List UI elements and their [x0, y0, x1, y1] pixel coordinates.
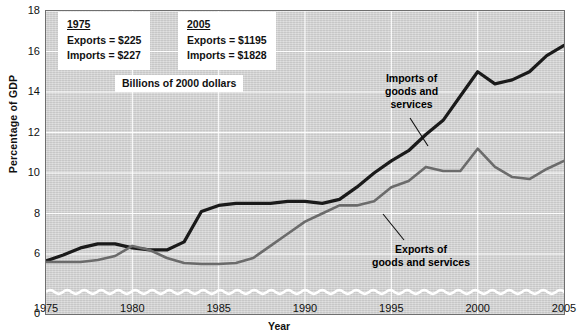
x-tick-2000: 2000	[465, 302, 489, 314]
info-box-1975: 1975 Exports = $225 Imports = $227	[58, 12, 150, 70]
info-box-1975-exports-label: Exports =	[67, 34, 115, 46]
info-box-1975-row-imports: Imports = $227	[67, 48, 141, 63]
x-axis-title: Year	[268, 320, 290, 332]
y-tick-6: 6	[18, 247, 40, 259]
info-box-1975-row-exports: Exports = $225	[67, 33, 141, 48]
info-box-2005-title: 2005	[187, 17, 267, 32]
info-box-2005-row-imports: Imports = $1828	[187, 48, 267, 63]
y-tick-8: 8	[18, 207, 40, 219]
series-label-imports: Imports of goods and services	[385, 72, 438, 111]
x-tick-1980: 1980	[120, 302, 144, 314]
units-note: Billions of 2000 dollars	[115, 75, 243, 92]
info-box-2005-exports-value: $1195	[238, 34, 267, 46]
info-box-2005: 2005 Exports = $1195 Imports = $1828	[178, 12, 276, 70]
x-tick-1995: 1995	[379, 302, 403, 314]
info-box-2005-imports-label: Imports =	[187, 49, 235, 61]
y-tick-14: 14	[18, 85, 40, 97]
info-box-2005-exports-label: Exports =	[187, 34, 235, 46]
chart-container: Percentage of GDP Year 0681012141618 197…	[0, 0, 586, 336]
info-box-1975-imports-value: $227	[117, 49, 140, 61]
y-tick-18: 18	[18, 4, 40, 16]
series-label-exports: Exports of goods and services	[372, 243, 470, 269]
x-tick-2005: 2005	[552, 302, 576, 314]
y-tick-16: 16	[18, 45, 40, 57]
info-box-1975-title: 1975	[67, 17, 141, 32]
info-box-1975-exports-value: $225	[118, 34, 141, 46]
info-box-2005-row-exports: Exports = $1195	[187, 33, 267, 48]
x-tick-1990: 1990	[293, 302, 317, 314]
y-tick-10: 10	[18, 166, 40, 178]
info-box-2005-imports-value: $1828	[237, 49, 266, 61]
x-tick-1985: 1985	[206, 302, 230, 314]
y-axis-tick-labels: 0681012141618	[0, 0, 40, 336]
info-box-1975-imports-label: Imports =	[67, 49, 115, 61]
y-tick-12: 12	[18, 126, 40, 138]
x-tick-1975: 1975	[34, 302, 58, 314]
